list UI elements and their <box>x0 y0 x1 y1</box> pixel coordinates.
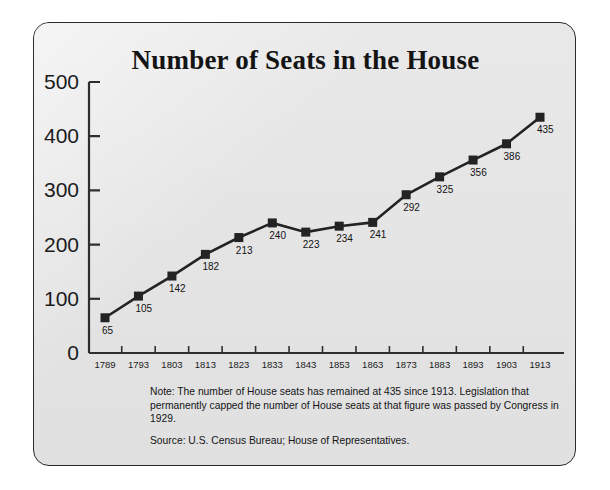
note-text: Note: The number of House seats has rema… <box>150 385 562 426</box>
data-marker <box>335 222 344 231</box>
data-marker <box>134 292 143 301</box>
data-marker <box>101 313 110 322</box>
data-point-label: 182 <box>202 261 219 272</box>
data-point-label: 223 <box>303 239 320 250</box>
data-point-label: 325 <box>437 184 454 195</box>
data-marker <box>536 113 545 122</box>
data-marker <box>368 218 377 227</box>
chart-panel: Number of Seats in the House 01002003004… <box>33 22 576 466</box>
data-point-label: 386 <box>504 151 521 162</box>
data-point-label: 292 <box>403 202 420 213</box>
data-point-label: 240 <box>269 230 286 241</box>
y-axis-tick-label: 0 <box>33 341 79 365</box>
footnotes: Note: The number of House seats has rema… <box>150 385 562 447</box>
data-marker <box>502 139 511 148</box>
data-marker <box>301 228 310 237</box>
data-marker <box>201 250 210 259</box>
data-point-label: 241 <box>370 229 387 240</box>
data-marker <box>268 218 277 227</box>
data-marker <box>402 190 411 199</box>
data-point-label: 105 <box>135 303 152 314</box>
data-marker <box>435 172 444 181</box>
data-point-label: 142 <box>169 283 186 294</box>
data-markers <box>101 113 545 323</box>
tick-marks <box>89 82 523 353</box>
plot-area: 0100200300400500 17891793180318131823183… <box>34 23 576 423</box>
y-axis-tick-label: 400 <box>33 124 79 148</box>
data-point-label: 435 <box>537 124 554 135</box>
data-point-label: 234 <box>336 233 353 244</box>
y-axis-tick-label: 300 <box>33 178 79 202</box>
source-text: Source: U.S. Census Bureau; House of Rep… <box>150 434 562 448</box>
axes <box>89 82 564 353</box>
data-marker <box>469 156 478 165</box>
data-point-label: 65 <box>102 325 113 336</box>
x-axis-tick-label: 1913 <box>520 359 560 370</box>
data-marker <box>167 272 176 281</box>
y-axis-tick-label: 100 <box>33 287 79 311</box>
data-point-label: 356 <box>470 167 487 178</box>
data-point-label: 213 <box>236 245 253 256</box>
y-axis-tick-label: 500 <box>33 70 79 94</box>
data-marker <box>234 233 243 242</box>
y-axis-tick-label: 200 <box>33 233 79 257</box>
